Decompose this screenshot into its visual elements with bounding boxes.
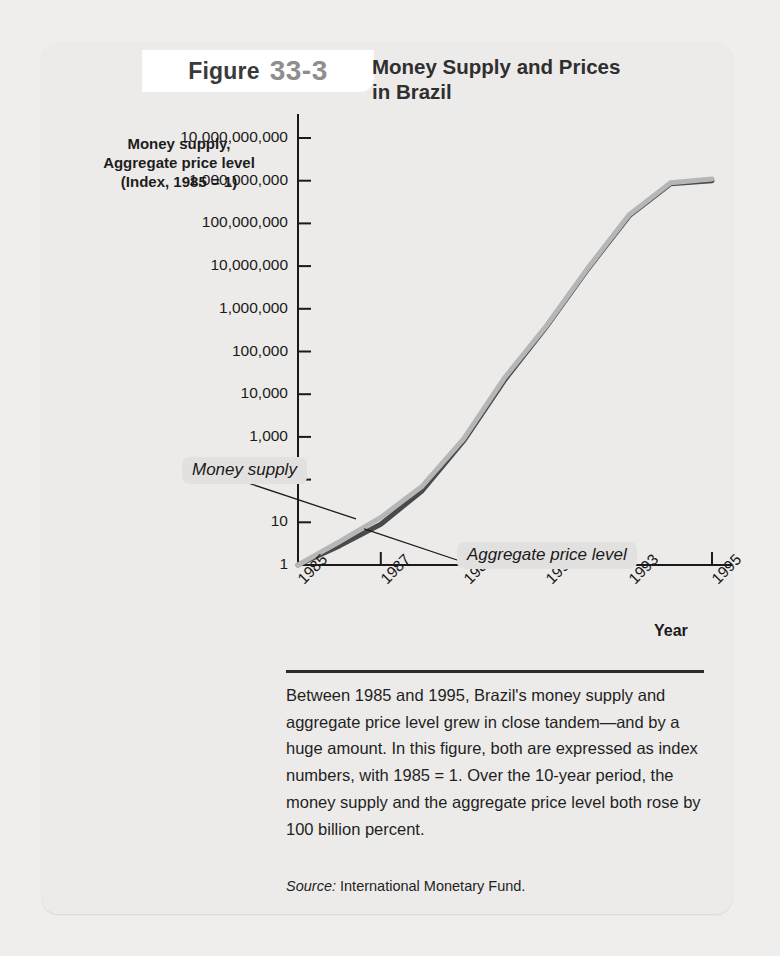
callout-aggregate-price-level: Aggregate price level: [457, 542, 637, 569]
figure-caption: Between 1985 and 1995, Brazil's money su…: [286, 682, 706, 842]
x-axis-title: Year: [654, 622, 688, 640]
y-tick-label: 1,000,000,000: [98, 171, 288, 189]
y-tick-label: 10,000: [98, 384, 288, 402]
y-tick-label: 1,000: [98, 427, 288, 445]
source-label: Source:: [286, 878, 336, 894]
source-value: International Monetary Fund.: [340, 878, 525, 894]
figure-source: Source: International Monetary Fund.: [286, 878, 706, 894]
y-tick-label: 100,000: [98, 342, 288, 360]
page-bleed-text: [96, 0, 696, 10]
y-axis-tick-labels: 10,000,000,0001,000,000,000100,000,00010…: [88, 42, 288, 602]
chart-axes: [298, 114, 732, 565]
chart-series-lines: [298, 179, 712, 565]
y-tick-label: 1,000,000: [98, 299, 288, 317]
callout-money-supply: Money supply: [182, 457, 307, 484]
y-tick-label: 100,000,000: [98, 213, 288, 231]
caption-divider: [286, 670, 704, 673]
y-tick-label: 1: [98, 555, 288, 573]
y-tick-label: 10,000,000,000: [98, 128, 288, 146]
y-tick-label: 10: [98, 512, 288, 530]
figure-card: Figure 33-3 Money Supply and Prices in B…: [42, 42, 732, 914]
y-tick-label: 10,000,000: [98, 256, 288, 274]
